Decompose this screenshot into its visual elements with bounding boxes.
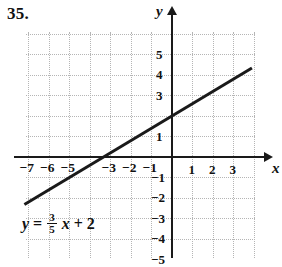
equation-constant: 2: [87, 215, 95, 233]
equation-fraction: 3 5: [47, 212, 57, 236]
equation-lhs: y: [22, 215, 29, 233]
equation-variable: x: [62, 215, 70, 233]
equation-label: y = 3 5 x + 2: [22, 212, 95, 236]
equation-equals: =: [33, 215, 42, 233]
fraction-numerator: 3: [47, 212, 57, 223]
fraction-denominator: 5: [47, 223, 57, 235]
equation-plus: +: [74, 215, 83, 233]
